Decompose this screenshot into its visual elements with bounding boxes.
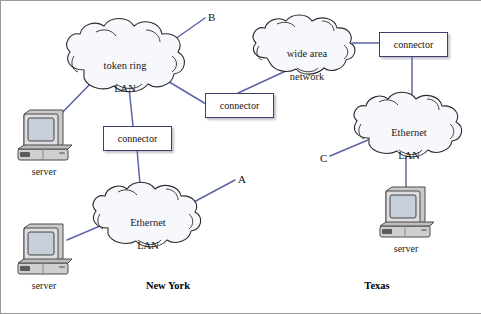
endpoint-label-a: A <box>238 173 246 185</box>
connector-label: connector <box>220 100 259 111</box>
network-diagram-canvas: token ring LAN Ethernet LAN wide area ne… <box>0 0 481 314</box>
site-caption-texas: Texas <box>342 280 412 291</box>
connector-box-tx-wan[interactable]: connector <box>379 32 448 57</box>
site-caption-new-york: New York <box>128 280 208 291</box>
cloud-token-ring-lan[interactable] <box>67 19 185 92</box>
connector-box-ny-to-wan[interactable]: connector <box>205 93 274 118</box>
connector-box-ny-token-ring[interactable]: connector <box>103 126 172 151</box>
cloud-wide-area-network[interactable] <box>253 15 355 74</box>
connector-label: connector <box>394 39 433 50</box>
server-label-ny-token-ring: server <box>16 166 72 177</box>
server-label-tx-ethernet: server <box>378 243 434 254</box>
server-computer-icon[interactable] <box>16 108 72 166</box>
connector-label: connector <box>118 133 157 144</box>
cloud-ethernet-lan-tx[interactable] <box>354 92 462 157</box>
endpoint-label-c: C <box>320 152 327 164</box>
server-computer-icon[interactable] <box>16 222 72 280</box>
server-computer-icon[interactable] <box>378 185 434 243</box>
cloud-ethernet-lan-ny[interactable] <box>93 182 201 247</box>
endpoint-label-b: B <box>208 11 215 23</box>
server-label-ny-ethernet: server <box>16 280 72 291</box>
